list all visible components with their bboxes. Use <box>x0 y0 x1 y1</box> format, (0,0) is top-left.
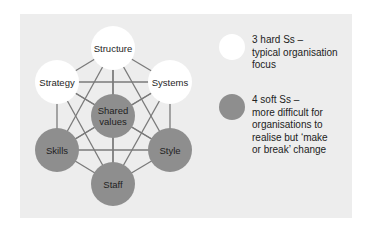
node-label-strategy: Strategy <box>27 77 87 88</box>
legend-soft-text: 4 soft Ss – more difficult for organisat… <box>252 94 328 157</box>
node-label-staff: Staff <box>83 179 143 190</box>
node-label-systems: Systems <box>140 77 200 88</box>
legend-hard-text: 3 hard Ss – typical organisation focus <box>252 34 338 72</box>
node-label-style: Style <box>140 145 200 156</box>
legend-hard-swatch <box>219 34 245 60</box>
node-label-structure: Structure <box>83 43 143 54</box>
node-label-shared-values: Shared values <box>83 105 143 127</box>
node-label-skills: Skills <box>27 145 87 156</box>
legend-soft-swatch <box>219 94 245 120</box>
legend-swatches <box>219 34 245 120</box>
